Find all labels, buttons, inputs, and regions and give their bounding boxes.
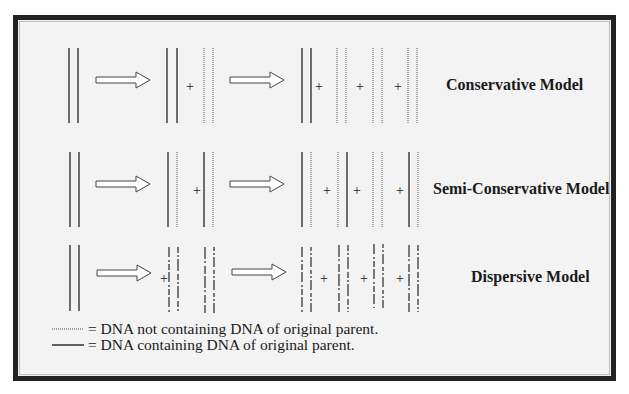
arrow-icon bbox=[230, 72, 284, 88]
plus-sign: + bbox=[315, 79, 323, 94]
plus-sign: + bbox=[396, 183, 404, 198]
plus-sign: + bbox=[323, 183, 331, 198]
plus-sign: + bbox=[320, 271, 328, 286]
plus-sign: + bbox=[394, 79, 402, 94]
plus-sign: + bbox=[356, 79, 364, 94]
legend-solid-text: = DNA containing DNA of original parent. bbox=[88, 336, 355, 354]
conservative-model-label: Conservative Model bbox=[446, 76, 583, 94]
semi-conservative-row bbox=[70, 152, 418, 227]
plus-sign: + bbox=[160, 271, 168, 286]
plus-sign: + bbox=[186, 79, 194, 94]
arrow-icon bbox=[97, 265, 151, 281]
conservative-row bbox=[69, 48, 417, 123]
arrow-icon bbox=[96, 72, 150, 88]
plus-sign: + bbox=[396, 271, 404, 286]
plus-sign: + bbox=[360, 271, 368, 286]
arrow-icon bbox=[232, 264, 286, 280]
arrow-icon bbox=[230, 176, 284, 192]
plus-sign: + bbox=[193, 183, 201, 198]
dispersive-model-label: Dispersive Model bbox=[471, 268, 590, 286]
arrow-icon bbox=[96, 176, 150, 192]
plus-sign: + bbox=[353, 183, 361, 198]
semi-conservative-model-label: Semi-Conservative Model bbox=[433, 180, 609, 198]
